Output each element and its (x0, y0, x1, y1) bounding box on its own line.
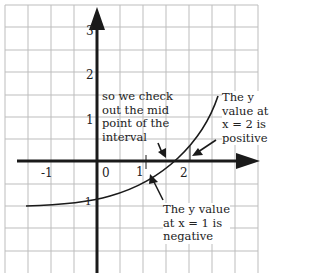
x-axis-arrowhead (236, 153, 260, 169)
x2-annotation: The y value at x = 2 is positive (222, 91, 274, 145)
x1-note-line: negative (163, 230, 230, 244)
x1-arrow (149, 174, 163, 200)
x-tick-0: 0 (102, 167, 110, 179)
midpoint-note-line: interval (102, 131, 173, 145)
x1-note-line: at x = 1 is (163, 217, 230, 231)
x2-note-line: x = 2 is (222, 118, 274, 132)
midpoint-note-line: point of the (102, 117, 173, 131)
x2-note-line: value at (222, 105, 274, 119)
y-tick-neg1: -1 (81, 196, 92, 207)
y-tick-2: 2 (86, 69, 94, 81)
x2-note-line: positive (222, 132, 274, 146)
y-tick-1: 1 (86, 114, 94, 126)
x-tick-1: 1 (136, 166, 144, 178)
x1-note-line: The y value (163, 203, 230, 217)
x2-note-line: The y (222, 91, 274, 105)
midpoint-annotation: so we check out the mid point of the int… (102, 90, 173, 144)
midpoint-note-line: out the mid (102, 104, 173, 118)
midpoint-note-line: so we check (102, 90, 173, 104)
x-tick-neg1: -1 (41, 167, 53, 179)
y-tick-3: 3 (86, 25, 94, 37)
x1-annotation: The y value at x = 1 is negative (163, 203, 230, 244)
midpoint-arrow (158, 143, 166, 158)
x-tick-2: 2 (180, 167, 188, 179)
